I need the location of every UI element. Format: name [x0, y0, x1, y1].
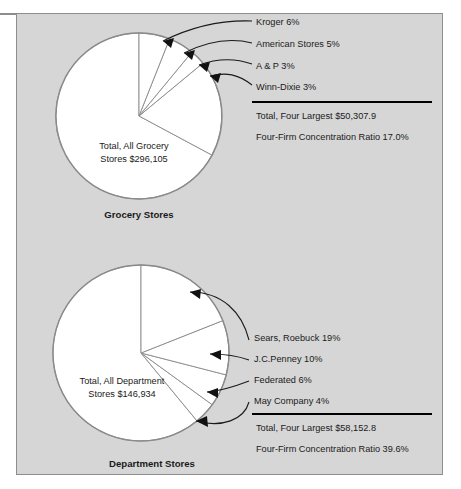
grocery-pie-group: Kroger 6% American Stores 5% A & P 3% Wi… — [56, 17, 432, 220]
grocery-summary-concentration-ratio: Four-Firm Concentration Ratio 17.0% — [256, 132, 409, 142]
grocery-callout-label-winn-dixie: Winn-Dixie 3% — [256, 82, 316, 92]
department-summary-concentration-ratio: Four-Firm Concentration Ratio 39.6% — [256, 444, 409, 454]
department-callout-label-may-company: May Company 4% — [254, 396, 329, 406]
grocery-center-label-line2: Stores $296,105 — [100, 154, 167, 164]
department-center-label-line2: Stores $146,934 — [88, 389, 155, 399]
department-summary-four-largest: Total, Four Largest $58,152.8 — [256, 423, 376, 433]
department-center-label-line1: Total, All Department — [80, 376, 165, 386]
department-callout-label-sears-roebuck: Sears, Roebuck 19% — [254, 333, 340, 343]
grocery-leader-kroger — [163, 21, 252, 41]
grocery-callout-label-american-stores: American Stores 5% — [256, 39, 340, 49]
pie-charts-svg: Kroger 6% American Stores 5% A & P 3% Wi… — [0, 0, 461, 489]
grocery-summary-four-largest: Total, Four Largest $50,307.9 — [256, 111, 376, 121]
department-callout-label-jcpenney: J.C.Penney 10% — [254, 354, 322, 364]
department-chart-caption: Department Stores — [109, 458, 195, 469]
grocery-callout-label-kroger: Kroger 6% — [256, 17, 299, 27]
figure-root: Kroger 6% American Stores 5% A & P 3% Wi… — [0, 0, 461, 489]
grocery-callout-label-a-and-p: A & P 3% — [256, 61, 295, 71]
department-callout-label-federated: Federated 6% — [254, 375, 312, 385]
grocery-center-label-line1: Total, All Grocery — [99, 141, 169, 151]
grocery-chart-caption: Grocery Stores — [104, 209, 173, 220]
department-pie-group: Sears, Roebuck 19% J.C.Penney 10% Federa… — [53, 265, 432, 469]
